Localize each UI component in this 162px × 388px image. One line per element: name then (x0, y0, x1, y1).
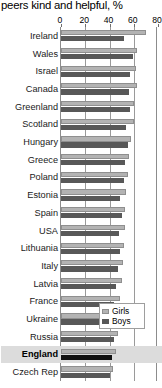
bar-row (61, 275, 156, 293)
bar-boys (61, 72, 130, 77)
bar-boys (61, 213, 122, 218)
x-tick-label-40: 40 (104, 15, 114, 25)
bar-girls (61, 154, 129, 159)
chart-legend: GirlsBoys (99, 303, 145, 329)
bar-boys (61, 266, 118, 271)
legend-label: Girls (112, 307, 129, 316)
bar-girls (61, 278, 122, 283)
category-label-england: England (0, 349, 58, 359)
bar-row (61, 328, 156, 346)
bar-girls (61, 101, 134, 106)
category-label-israel: Israel (0, 66, 58, 76)
bar-boys (61, 231, 119, 236)
category-label-russia: Russia (0, 332, 58, 342)
bar-boys (61, 355, 112, 360)
bar-girls (61, 260, 123, 265)
bar-girls (61, 243, 124, 248)
bar-row (61, 346, 156, 364)
bar-boys (61, 284, 116, 289)
bar-boys (61, 373, 110, 378)
bar-girls (61, 349, 116, 354)
bar-row (61, 204, 156, 222)
bar-boys (61, 36, 124, 41)
category-label-italy: Italy (0, 261, 58, 271)
category-label-lithuania: Lithuania (0, 243, 58, 253)
bar-boys (61, 249, 120, 254)
category-label-scotland: Scotland (0, 119, 58, 129)
bar-boys (61, 196, 120, 201)
bar-girls (61, 83, 137, 88)
bar-girls (61, 30, 146, 35)
bar-boys (61, 160, 125, 165)
category-label-greece: Greece (0, 155, 58, 165)
bar-boys (61, 337, 114, 342)
bar-row (61, 45, 156, 63)
bar-girls (61, 207, 125, 212)
category-label-usa: USA (0, 226, 58, 236)
bar-row (61, 363, 156, 381)
category-label-estonia: Estonia (0, 190, 58, 200)
bar-chart: peers kind and helpful, % 020406080 Girl… (0, 0, 162, 388)
x-tick-label-60: 60 (128, 15, 138, 25)
bar-row (61, 169, 156, 187)
legend-swatch-girls-icon (102, 309, 109, 314)
legend-item-boys: Boys (102, 316, 141, 326)
bar-girls (61, 225, 125, 230)
bar-boys (61, 125, 126, 130)
legend-item-girls: Girls (102, 306, 141, 316)
bar-boys (61, 178, 124, 183)
bar-row (61, 98, 156, 116)
x-tick-label-80: 80 (152, 15, 162, 25)
bar-row (61, 257, 156, 275)
x-axis-tick-labels: 020406080 (0, 15, 162, 26)
category-label-latvia: Latvia (0, 279, 58, 289)
bar-row (61, 80, 156, 98)
bar-girls (61, 136, 131, 141)
category-label-greenland: Greenland (0, 102, 58, 112)
category-label-ukraine: Ukraine (0, 314, 58, 324)
bar-boys (61, 89, 129, 94)
bar-girls (61, 296, 120, 301)
bar-girls (61, 48, 137, 53)
bar-girls (61, 366, 113, 371)
chart-title: peers kind and helpful, % (1, 0, 161, 12)
category-label-hungary: Hungary (0, 137, 58, 147)
category-label-poland: Poland (0, 172, 58, 182)
category-label-france: France (0, 296, 58, 306)
bar-row (61, 151, 156, 169)
bar-row (61, 186, 156, 204)
legend-swatch-boys-icon (102, 319, 109, 324)
bar-girls (61, 331, 118, 336)
category-label-czech-rep: Czech Rep (0, 367, 58, 377)
legend-label: Boys (112, 317, 131, 326)
x-tick-mark-80 (158, 24, 159, 27)
bar-row (61, 239, 156, 257)
bar-girls (61, 172, 128, 177)
bar-row (61, 222, 156, 240)
bar-girls (61, 189, 126, 194)
bar-boys (61, 54, 133, 59)
category-label-wales: Wales (0, 49, 58, 59)
category-label-canada: Canada (0, 84, 58, 94)
category-label-spain: Spain (0, 208, 58, 218)
bar-boys (61, 142, 128, 147)
bar-row (61, 116, 156, 134)
x-tick-label-20: 20 (79, 15, 89, 25)
bar-row (61, 133, 156, 151)
bar-boys (61, 107, 130, 112)
bar-girls (61, 119, 134, 124)
bar-row (61, 62, 156, 80)
category-label-ireland: Ireland (0, 31, 58, 41)
bar-row (61, 27, 156, 45)
bar-girls (61, 66, 136, 71)
